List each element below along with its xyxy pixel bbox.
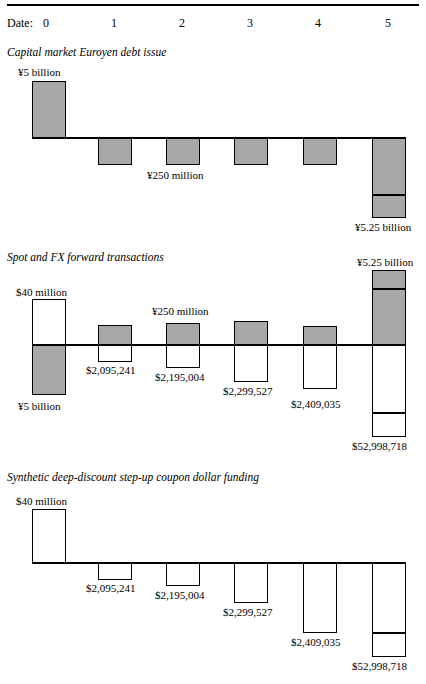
date-tick-2: 2 <box>174 16 190 30</box>
panel-2-bar-date-4-above <box>303 326 337 345</box>
date-axis-label: Date: <box>7 16 33 30</box>
panel-3-note-payment-date-2: $2,195,004 <box>155 589 205 602</box>
panel-3-note-payment-date-4: $2,409,035 <box>291 636 341 649</box>
panel-2-bar-date-5-below-divider <box>372 412 406 414</box>
panel-1-note-yen250million: ¥250 million <box>147 169 204 182</box>
panel-1-bar-date-5-divider <box>372 194 406 196</box>
panel-2-note-payment-date-3: $2,299,527 <box>223 385 273 398</box>
panel-1-bar-date-2 <box>166 138 200 165</box>
panel-2-title: Spot and FX forward transactions <box>7 250 164 264</box>
panel-2-bar-date-4-below <box>303 345 337 389</box>
panel-1-bar-date-0 <box>32 81 66 138</box>
panel-3-bar-date-5 <box>372 563 406 657</box>
panel-1-title: Capital market Euroyen debt issue <box>7 45 166 59</box>
panel-2-bar-date-2-below <box>166 345 200 368</box>
panel-2-bar-date-0-below <box>32 345 66 395</box>
panel-3-title: Synthetic deep-discount step-up coupon d… <box>7 470 259 484</box>
panel-1-note-yen5billion: ¥5 billion <box>18 66 60 79</box>
panel-3-bar-date-4 <box>303 563 337 633</box>
panel-2-note-yen250million: ¥250 million <box>152 305 209 318</box>
panel-2-note-yen5billion: ¥5 billion <box>18 400 60 413</box>
panel-2-axis <box>32 344 406 346</box>
panel-2-bar-date-3-below <box>234 345 268 382</box>
panel-1-bar-date-5 <box>372 138 406 218</box>
date-tick-1: 1 <box>106 16 122 30</box>
panel-2-bar-date-5-above <box>372 270 406 345</box>
panel-3-bar-date-3 <box>234 563 268 603</box>
date-tick-4: 4 <box>310 16 326 30</box>
panel-2-note-dollar40million: $40 million <box>16 286 67 299</box>
panel-2-note-yen525billion: ¥5.25 billion <box>357 256 413 269</box>
panel-2-bar-date-3-above <box>234 321 268 345</box>
top-horizontal-rule <box>7 4 419 6</box>
panel-3-bar-date-0 <box>32 509 66 563</box>
date-tick-3: 3 <box>242 16 258 30</box>
panel-3-note-payment-date-1: $2,095,241 <box>86 582 136 595</box>
panel-2-note-payment-date-1: $2,095,241 <box>86 364 136 377</box>
panel-1-axis <box>32 137 406 139</box>
panel-2-bar-date-5-above-divider <box>372 288 406 290</box>
panel-1-note-yen525billion: ¥5.25 billion <box>355 221 411 234</box>
panel-3-axis <box>32 562 406 564</box>
panel-1-bar-date-3 <box>234 138 268 165</box>
panel-2-note-payment-date-2: $2,195,004 <box>155 371 205 384</box>
panel-2-bar-date-0-above <box>32 299 66 345</box>
panel-3-bar-date-5-divider <box>372 632 406 634</box>
panel-2-bar-date-2-above <box>166 323 200 345</box>
panel-3-bar-date-2 <box>166 563 200 586</box>
panel-3-note-payment-date-3: $2,299,527 <box>223 606 273 619</box>
panel-2-bar-date-5-below <box>372 345 406 437</box>
panel-2-bar-date-1-above <box>98 325 132 345</box>
date-tick-5: 5 <box>380 16 396 30</box>
panel-3-note-payment-date-5: $52,998,718 <box>352 660 407 673</box>
cash-flow-diagram: Date: 0 1 2 3 4 5 Capital market Euroyen… <box>0 0 426 684</box>
panel-3-bar-date-1 <box>98 563 132 580</box>
panel-2-note-payment-date-5: $52,998,718 <box>352 440 407 453</box>
date-tick-0: 0 <box>38 16 54 30</box>
panel-1-bar-date-1 <box>98 138 132 165</box>
panel-3-note-dollar40million: $40 million <box>16 495 67 508</box>
panel-2-bar-date-1-below <box>98 345 132 362</box>
panel-1-bar-date-4 <box>303 138 337 165</box>
panel-2-note-payment-date-4: $2,409,035 <box>291 398 341 411</box>
